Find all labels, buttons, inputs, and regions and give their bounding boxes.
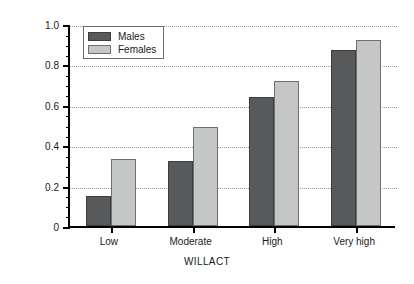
bar-males-very-high <box>331 50 356 226</box>
y-axis-tick <box>63 227 70 229</box>
x-axis-tick <box>274 226 276 233</box>
legend-label-males: Males <box>118 31 145 42</box>
bar-females-very-high <box>356 40 381 226</box>
y-axis-minor-tick <box>66 86 70 87</box>
x-axis-tick <box>356 226 358 233</box>
y-axis-minor-tick <box>66 36 70 37</box>
bar-females-low <box>111 159 136 226</box>
y-axis-minor-tick <box>66 96 70 97</box>
bar-males-moderate <box>168 161 193 226</box>
x-axis-tick-label: Very high <box>309 236 399 247</box>
x-axis-tick <box>193 226 195 233</box>
y-axis-tick-label: 0.6 <box>19 102 59 112</box>
y-axis-tick-label: 0 <box>19 223 59 233</box>
y-axis-tick-label: 0.2 <box>19 183 59 193</box>
x-axis-tick-label: High <box>227 236 317 247</box>
bar-females-moderate <box>193 127 218 226</box>
y-axis-tick <box>63 65 70 67</box>
y-axis-tick <box>63 106 70 108</box>
x-axis-tick <box>111 226 113 233</box>
y-axis-tick <box>63 25 70 27</box>
y-axis-tick <box>63 146 70 148</box>
y-axis-minor-tick <box>66 116 70 117</box>
x-axis-title: WILLACT <box>0 256 414 267</box>
y-axis-minor-tick <box>66 137 70 138</box>
y-axis-tick-label: 0.8 <box>19 61 59 71</box>
y-axis-minor-tick <box>66 56 70 57</box>
y-axis-minor-tick <box>66 207 70 208</box>
legend-swatch-males-icon <box>88 32 111 41</box>
legend-label-females: Females <box>118 44 156 55</box>
y-axis-minor-tick <box>66 167 70 168</box>
bar-chart: Support Groups (mean) WILLACT Males Fema… <box>0 0 414 284</box>
y-axis-minor-tick <box>66 197 70 198</box>
y-axis-minor-tick <box>66 217 70 218</box>
legend-item-females: Females <box>88 43 159 56</box>
x-axis-tick-label: Moderate <box>146 236 236 247</box>
bar-males-low <box>86 196 111 226</box>
y-axis-tick <box>63 187 70 189</box>
y-axis-minor-tick <box>66 76 70 77</box>
bar-males-high <box>249 97 274 226</box>
y-axis-minor-tick <box>66 157 70 158</box>
legend-item-males: Males <box>88 30 159 43</box>
y-axis-minor-tick <box>66 46 70 47</box>
legend: Males Females <box>83 26 164 59</box>
y-axis-minor-tick <box>66 177 70 178</box>
legend-swatch-females-icon <box>88 45 111 54</box>
y-axis-tick-label: 1.0 <box>19 21 59 31</box>
y-axis-minor-tick <box>66 127 70 128</box>
x-axis-tick-label: Low <box>64 236 154 247</box>
y-axis-tick-label: 0.4 <box>19 142 59 152</box>
bar-females-high <box>274 81 299 226</box>
